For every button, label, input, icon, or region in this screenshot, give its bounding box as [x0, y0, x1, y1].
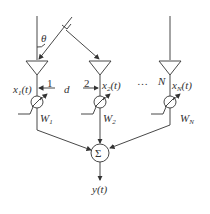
summer-symbol: Σ — [95, 148, 101, 159]
array-diagram — [0, 0, 210, 214]
signal-label-2: x2(t) — [102, 80, 121, 93]
weight-label-n: WN — [180, 113, 194, 126]
element-index-2: 2 — [84, 78, 90, 89]
ellipsis: … — [137, 76, 148, 87]
antenna-triangle-1 — [26, 61, 48, 75]
signal-label-1: x1(t) — [13, 84, 32, 97]
signal-path-1 — [37, 130, 91, 150]
weight-label-1: W1 — [40, 113, 53, 126]
signal-label-n: xN(t) — [172, 80, 192, 93]
element-index-1: 1 — [47, 78, 53, 89]
incident-ray-2 — [66, 30, 99, 59]
weight-label-2: W2 — [103, 113, 116, 126]
element-index-n: N — [158, 76, 165, 87]
antenna-triangle-2 — [89, 61, 111, 75]
output-label: y(t) — [92, 184, 107, 195]
signal-path-n — [110, 125, 170, 148]
theta-label: θ — [41, 33, 46, 44]
antenna-triangle-n — [159, 61, 181, 75]
theta-arc — [37, 44, 45, 47]
spacing-label: d — [64, 84, 70, 95]
